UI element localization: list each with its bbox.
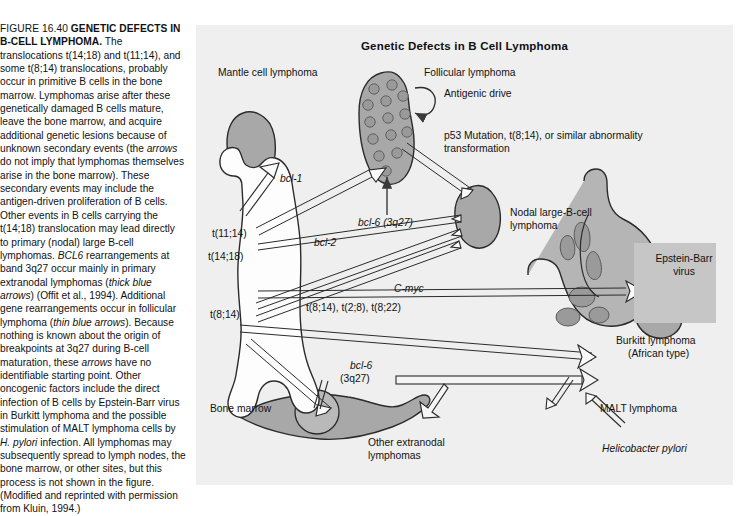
label-helicobacter-pylori: Helicobacter pylori (602, 443, 687, 456)
label-p53-mutation: p53 Mutation, t(8;14), or similar abnorm… (444, 130, 643, 143)
label-mantle-cell-lymphoma: Mantle cell lymphoma (218, 67, 318, 80)
label-other-extranodal-line1: Other extranodal (368, 437, 445, 450)
label-nodal-lymphoma-line1: Nodal large-B-cell (510, 207, 592, 220)
follicular-lymphoma-shape (359, 72, 435, 184)
label-t1114: t(11;14) (212, 228, 247, 241)
label-bcl6-3q27-top: bcl-6 (3q27) (358, 217, 413, 230)
label-bcl6-line2: (3q27) (340, 373, 370, 386)
label-bcl6-line1: bcl-6 (350, 360, 372, 373)
label-t1418: t(14;18) (208, 251, 244, 264)
figure-number: FIGURE 16.40 (0, 23, 68, 34)
label-nodal-lymphoma-line2: lymphoma (510, 220, 558, 233)
label-translocation-list: t(8;14), t(2;8), t(8;22) (306, 302, 401, 315)
bone-marrow-shape (220, 148, 319, 418)
label-p53-transformation: transformation (444, 143, 510, 156)
label-bone-marrow: Bone marrow (210, 403, 271, 416)
label-ebv-line1: Epstein-Barr (648, 253, 720, 266)
label-burkitt-line1: Burkitt lymphoma (616, 335, 696, 348)
figure-caption: FIGURE 16.40 GENETIC DEFECTS IN B-CELL L… (0, 22, 186, 492)
label-other-extranodal-line2: lymphomas (368, 450, 421, 463)
label-t814: t(8;14) (210, 309, 240, 322)
figure-caption-body: The translocations t(14;18) and t(11;14)… (0, 36, 186, 514)
label-cmyc: C-myc (394, 283, 424, 296)
label-bcl2: bcl-2 (314, 237, 336, 250)
label-malt-lymphoma: MALT lymphoma (600, 403, 677, 416)
figure-panel: Genetic Defects in B Cell Lymphoma (196, 25, 733, 485)
label-ebv-line2: virus (648, 266, 720, 279)
label-follicular-lymphoma: Follicular lymphoma (424, 67, 516, 80)
label-burkitt-line2: (African type) (628, 348, 689, 361)
label-antigenic-drive: Antigenic drive (444, 88, 512, 101)
label-bcl1: bcl-1 (280, 173, 302, 186)
